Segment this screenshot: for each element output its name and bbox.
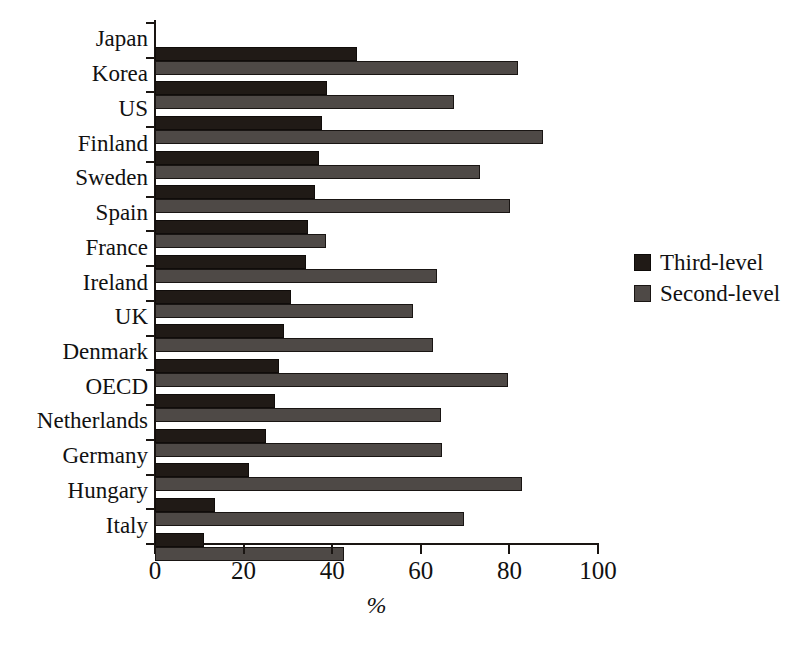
bar-sweden-second-level	[155, 199, 510, 213]
legend-label-third-level: Third-level	[660, 250, 763, 276]
x-axis-tick-label: 80	[474, 556, 544, 586]
bar-ireland-second-level	[155, 304, 413, 318]
y-axis-tick	[146, 265, 155, 267]
y-axis-tick	[146, 439, 155, 441]
category-label-spain: Spain	[7, 200, 155, 226]
bar-spain-third-level	[155, 220, 308, 234]
legend-swatch-third-level-icon	[634, 254, 651, 271]
y-axis-tick	[146, 543, 155, 545]
bar-hungary-second-level	[155, 512, 464, 526]
x-axis-tick-label: 60	[386, 556, 456, 586]
bar-finland-third-level	[155, 151, 319, 165]
category-label-italy: Italy	[7, 513, 155, 539]
y-axis-tick	[146, 404, 155, 406]
category-label-ireland: Ireland	[7, 270, 155, 296]
y-axis-tick	[146, 508, 155, 510]
category-label-us: US	[7, 96, 155, 122]
bar-france-third-level	[155, 255, 306, 269]
bar-uk-second-level	[155, 338, 433, 352]
plot-area	[155, 22, 598, 543]
y-axis-tick	[146, 22, 155, 24]
y-axis-tick	[146, 300, 155, 302]
bar-hungary-third-level	[155, 498, 215, 512]
bar-korea-third-level	[155, 81, 327, 95]
y-axis-tick	[146, 126, 155, 128]
y-axis-tick	[146, 369, 155, 371]
x-axis-tick	[420, 545, 422, 554]
x-axis-tick	[597, 545, 599, 554]
category-label-uk: UK	[7, 304, 155, 330]
x-axis-line	[154, 543, 599, 545]
bar-oecd-third-level	[155, 394, 275, 408]
category-label-korea: Korea	[7, 61, 155, 87]
legend-item-third-level: Third-level	[634, 247, 780, 278]
bar-netherlands-third-level	[155, 429, 266, 443]
bar-sweden-third-level	[155, 185, 315, 199]
x-axis-tick-label: 0	[120, 556, 190, 586]
bar-uk-third-level	[155, 324, 284, 338]
y-axis-tick	[146, 91, 155, 93]
y-axis-tick	[146, 474, 155, 476]
bar-chart: JapanKoreaUSFinlandSwedenSpainFranceIrel…	[0, 0, 808, 650]
bar-japan-third-level	[155, 47, 357, 61]
x-axis-tick-label: 100	[563, 556, 633, 586]
y-axis-tick	[146, 335, 155, 337]
bar-ireland-third-level	[155, 290, 291, 304]
category-label-oecd: OECD	[7, 374, 155, 400]
category-label-sweden: Sweden	[7, 165, 155, 191]
bar-denmark-third-level	[155, 359, 279, 373]
x-axis-tick-label: 20	[209, 556, 279, 586]
x-axis-tick	[154, 545, 156, 554]
bar-us-third-level	[155, 116, 322, 130]
category-label-japan: Japan	[7, 26, 155, 52]
legend-label-second-level: Second-level	[660, 281, 780, 307]
bar-germany-third-level	[155, 463, 249, 477]
legend-item-second-level: Second-level	[634, 278, 780, 309]
category-axis-labels: JapanKoreaUSFinlandSwedenSpainFranceIrel…	[0, 0, 155, 650]
y-axis-tick	[146, 161, 155, 163]
bar-spain-second-level	[155, 234, 326, 248]
category-label-hungary: Hungary	[7, 478, 155, 504]
category-label-germany: Germany	[7, 443, 155, 469]
category-label-france: France	[7, 235, 155, 261]
category-label-finland: Finland	[7, 131, 155, 157]
chart-legend: Third-level Second-level	[634, 247, 780, 309]
y-axis-tick	[146, 230, 155, 232]
bar-korea-second-level	[155, 95, 454, 109]
y-axis-tick	[146, 57, 155, 59]
bar-us-second-level	[155, 130, 543, 144]
x-axis-tick	[508, 545, 510, 554]
bar-finland-second-level	[155, 165, 480, 179]
bar-netherlands-second-level	[155, 443, 442, 457]
category-label-netherlands: Netherlands	[7, 408, 155, 434]
bar-italy-third-level	[155, 533, 204, 547]
category-label-denmark: Denmark	[7, 339, 155, 365]
bar-oecd-second-level	[155, 408, 441, 422]
bar-japan-second-level	[155, 61, 518, 75]
x-axis-tick	[331, 545, 333, 554]
bar-denmark-second-level	[155, 373, 508, 387]
x-axis-tick	[243, 545, 245, 554]
bar-france-second-level	[155, 269, 437, 283]
x-axis-title: %	[155, 592, 598, 619]
x-axis-tick-label: 40	[297, 556, 367, 586]
bar-germany-second-level	[155, 477, 522, 491]
y-axis-tick	[146, 196, 155, 198]
legend-swatch-second-level-icon	[634, 285, 651, 302]
